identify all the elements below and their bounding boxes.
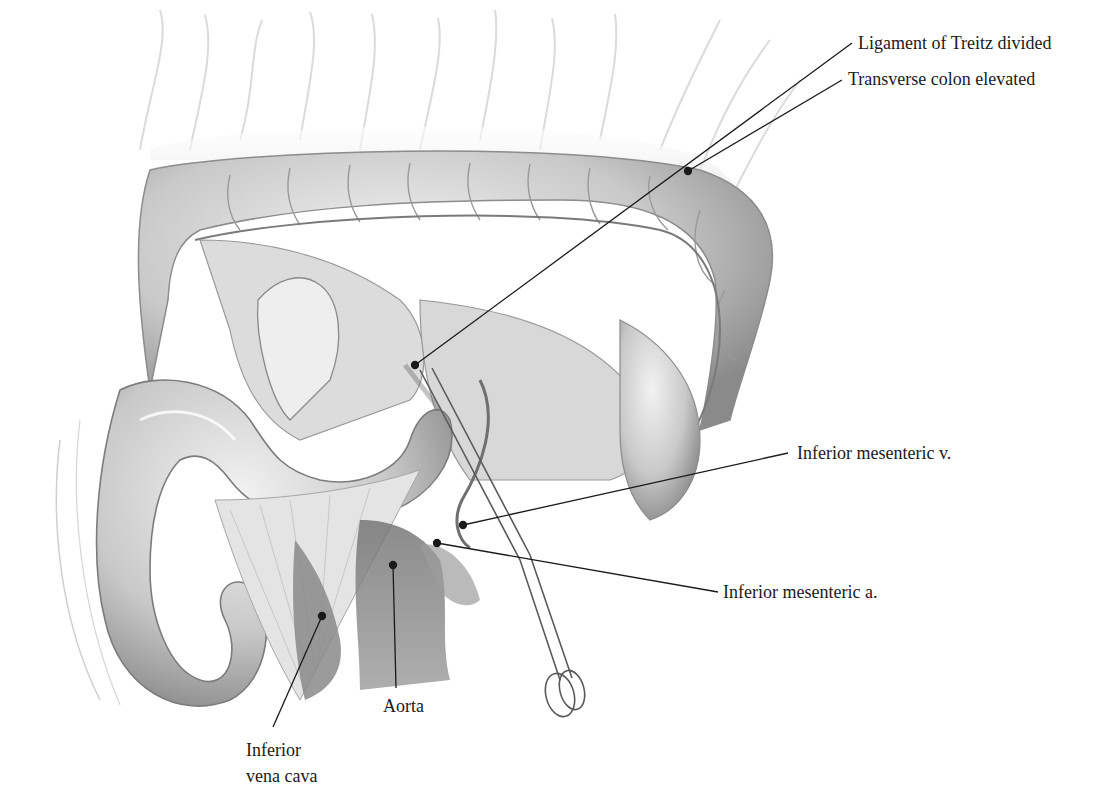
leader-ligament-treitz	[415, 43, 852, 365]
label-aorta: Aorta	[383, 696, 424, 716]
label-ivc-line1: Inferior	[246, 737, 317, 763]
label-ivc-line2: vena cava	[246, 763, 317, 789]
leader-ima	[437, 543, 718, 592]
leader-transverse-colon	[688, 80, 842, 171]
anatomical-illustration: Transverse colon elevated Ligament of Tr…	[0, 0, 1117, 808]
label-inferior-mesenteric-v: Inferior mesenteric v.	[797, 443, 951, 463]
label-ligament-treitz: Ligament of Treitz divided	[858, 33, 1051, 53]
label-transverse-colon: Transverse colon elevated	[848, 69, 1035, 89]
illustration-drawing	[0, 0, 1117, 808]
label-inferior-mesenteric-a: Inferior mesenteric a.	[723, 582, 877, 602]
label-inferior-vena-cava: Inferior vena cava	[246, 737, 317, 789]
